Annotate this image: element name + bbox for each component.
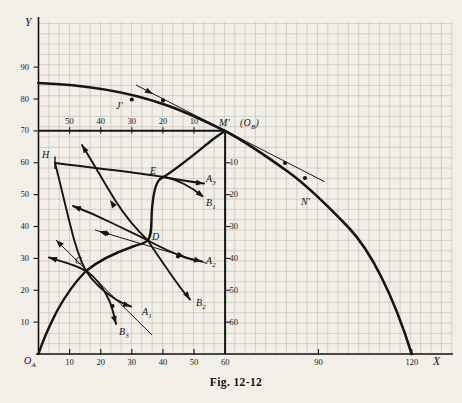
x-tick-label: 120 [402, 357, 422, 368]
point-label-j: J′ [116, 100, 123, 112]
point-label-h: H [42, 149, 49, 161]
point-n-dot [303, 176, 307, 180]
figure-caption: Fig. 12-12 [156, 376, 316, 388]
inner-right-tick-label: 20 [230, 189, 250, 200]
grid-lines [39, 22, 452, 354]
figure-canvas [0, 0, 462, 403]
y-tick-label: 50 [8, 189, 29, 200]
inner-top-tick-label: 30 [122, 116, 142, 127]
y-tick-label: 10 [8, 317, 29, 328]
y-tick-label: 20 [8, 285, 29, 296]
x-tick-label: 60 [215, 357, 235, 368]
y-tick-label: 30 [8, 253, 29, 264]
curve-label-b1: B1 [206, 197, 216, 209]
inner-right-tick-label: 50 [230, 285, 250, 296]
origin-b-label: (OB) [240, 117, 259, 129]
inner-right-tick-label: 30 [230, 221, 250, 232]
inner-right-tick-label: 10 [230, 157, 250, 168]
curve-label-a2: A2 [206, 255, 216, 267]
inner-right-tick-label: 60 [230, 317, 250, 328]
point-label-c: C [75, 255, 82, 267]
x-tick-label: 20 [91, 357, 111, 368]
curve-label-a3: A3 [206, 173, 216, 185]
y-tick-label: 60 [8, 157, 29, 168]
axis-y-letter: Y [25, 16, 31, 28]
x-tick-label: 10 [60, 357, 80, 368]
curve-label-b2: B2 [196, 297, 206, 309]
inner-top-tick-label: 50 [60, 116, 80, 127]
inner-right-tick-label: 40 [230, 253, 250, 264]
curve-b3-dot [110, 304, 114, 308]
y-tick-label: 70 [8, 125, 29, 136]
inner-top-tick-label: 40 [91, 116, 111, 127]
origin-a-label: OA [24, 355, 36, 367]
point-j-dot [130, 97, 134, 101]
point-label-n: N′ [301, 196, 310, 208]
y-tick-label: 80 [8, 94, 29, 105]
inner-top-tick-label: 10 [184, 116, 204, 127]
curve-label-a1: A1 [142, 306, 152, 318]
x-tick-label: 30 [122, 357, 142, 368]
y-tick-label: 90 [8, 62, 29, 73]
point-label-d: D [152, 231, 159, 243]
axis-x-letter: X [433, 355, 440, 367]
x-tick-label: 50 [184, 357, 204, 368]
price-line-d-dot [105, 232, 109, 236]
curve-a2-dot [176, 254, 180, 258]
point-label-e: E [150, 165, 156, 177]
price-line-m-dot-upper [161, 98, 165, 102]
x-tick-label: 90 [308, 357, 328, 368]
curve-label-b3: B3 [119, 326, 129, 338]
figure-12-12: 1020304050607080901020304050609012050403… [0, 0, 462, 403]
point-label-m: M′ [219, 117, 230, 129]
inner-top-tick-label: 20 [153, 116, 173, 127]
x-tick-label: 40 [153, 357, 173, 368]
y-tick-label: 40 [8, 221, 29, 232]
price-line-m-dot-lower [283, 161, 287, 165]
